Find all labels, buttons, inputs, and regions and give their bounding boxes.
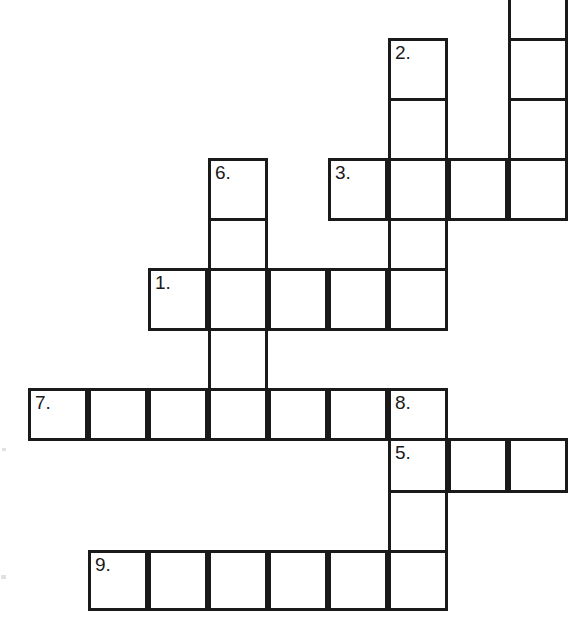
- cell-number: 6.: [215, 162, 231, 184]
- cell-c3-r6[interactable]: [208, 328, 268, 391]
- cell-c4-r5[interactable]: [268, 268, 328, 331]
- cell-number: 9.: [95, 554, 111, 576]
- cell-c3-r7[interactable]: [208, 388, 268, 441]
- cell-c6-r10[interactable]: [388, 550, 448, 611]
- cell-c6-r1[interactable]: 2.: [388, 38, 448, 101]
- cell-c6-r4[interactable]: [388, 218, 448, 271]
- cell-c5-r7[interactable]: [328, 388, 388, 441]
- cell-c8-r1[interactable]: [508, 38, 568, 101]
- cell-c8-r2[interactable]: [508, 98, 568, 161]
- cell-c6-r5[interactable]: [388, 268, 448, 331]
- cell-number: 5.: [395, 442, 411, 464]
- cell-c3-r3[interactable]: 6.: [208, 158, 268, 221]
- cell-number: 3.: [335, 162, 351, 184]
- cell-number: 2.: [395, 42, 411, 64]
- cell-c2-r7[interactable]: [148, 388, 208, 441]
- cell-c0-r7[interactable]: 7.: [28, 388, 88, 441]
- cell-c5-r10[interactable]: [328, 550, 388, 611]
- cell-c2-r5[interactable]: 1.: [148, 268, 208, 331]
- cell-c8-r8[interactable]: [508, 438, 568, 493]
- cell-number: 7.: [35, 392, 51, 414]
- cell-c4-r7[interactable]: [268, 388, 328, 441]
- cell-number: 1.: [155, 272, 171, 294]
- crossword-grid[interactable]: 4.2.3.6.1.7.8.5.9.: [0, 0, 583, 639]
- cell-c6-r8[interactable]: 5.: [388, 438, 448, 493]
- cell-c8-r0[interactable]: 4.: [508, 0, 568, 41]
- cell-c6-r9[interactable]: [388, 490, 448, 553]
- speckle-left-lower: [1, 575, 6, 579]
- cell-c5-r5[interactable]: [328, 268, 388, 331]
- cell-number: 8.: [395, 392, 411, 414]
- cell-c8-r3[interactable]: [508, 158, 568, 221]
- cell-c1-r7[interactable]: [88, 388, 148, 441]
- cell-c6-r3[interactable]: [388, 158, 448, 221]
- cell-c3-r10[interactable]: [208, 550, 268, 611]
- cell-c1-r10[interactable]: 9.: [88, 550, 148, 611]
- crossword-puzzle-page: 4.2.3.6.1.7.8.5.9.: [0, 0, 583, 639]
- cell-c6-r7[interactable]: 8.: [388, 388, 448, 441]
- cell-c4-r10[interactable]: [268, 550, 328, 611]
- speckle-left-upper: [2, 448, 6, 451]
- cell-c2-r10[interactable]: [148, 550, 208, 611]
- cell-c3-r5[interactable]: [208, 268, 268, 331]
- cell-c6-r2[interactable]: [388, 98, 448, 161]
- cell-c7-r3[interactable]: [448, 158, 508, 221]
- cell-number: 4.: [515, 0, 531, 4]
- cell-c7-r8[interactable]: [448, 438, 508, 493]
- cell-c5-r3[interactable]: 3.: [328, 158, 388, 221]
- cell-c3-r4[interactable]: [208, 218, 268, 271]
